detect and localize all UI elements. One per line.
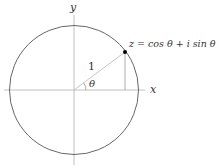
unit-circle-diagram: y x 1 θ z = cos θ + i sin θ — [0, 0, 221, 167]
angle-arc — [84, 83, 86, 90]
radius-label: 1 — [88, 60, 95, 73]
angle-label: θ — [89, 78, 95, 89]
y-axis-label: y — [69, 1, 77, 14]
point-z-label: z = cos θ + i sin θ — [128, 38, 216, 49]
x-axis-label: x — [150, 83, 157, 96]
radius-line — [74, 52, 125, 90]
point-z — [123, 50, 127, 54]
